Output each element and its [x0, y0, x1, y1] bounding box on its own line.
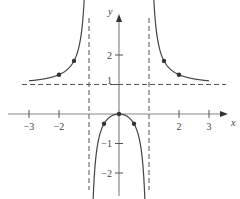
y-axis-arrow-icon — [116, 14, 122, 22]
asymptote-lines — [22, 18, 226, 190]
data-point — [57, 72, 61, 76]
axis-labels: −3−22321−1−2xy — [24, 6, 236, 179]
y-tick-label: −1 — [101, 138, 112, 149]
data-point — [177, 72, 181, 76]
curve-left-branch — [29, 0, 85, 81]
data-point — [132, 122, 136, 126]
curve-right-branch — [153, 0, 209, 81]
axes — [8, 14, 228, 196]
x-tick-label: −2 — [54, 121, 65, 132]
y-tick-label: 2 — [107, 50, 112, 61]
data-point — [117, 112, 121, 116]
x-tick-label: 2 — [177, 121, 182, 132]
function-graph: −3−22321−1−2xy — [0, 0, 240, 199]
x-axis-label: x — [230, 117, 236, 128]
data-point — [102, 122, 106, 126]
x-tick-label: 3 — [207, 121, 212, 132]
x-axis-arrow-icon — [220, 111, 228, 117]
x-tick-label: −3 — [24, 121, 35, 132]
y-tick-label: 1 — [107, 75, 112, 86]
data-point — [162, 59, 166, 63]
data-point — [72, 59, 76, 63]
y-tick-label: −2 — [101, 168, 112, 179]
y-axis-label: y — [107, 6, 113, 17]
